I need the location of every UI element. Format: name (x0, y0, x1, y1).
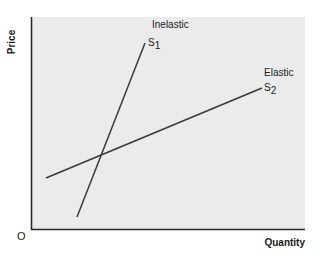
s2-subscript: 2 (271, 85, 277, 96)
y-axis-label: Price (6, 29, 17, 54)
supply-elasticity-diagram: Price Quantity O Inelastic S1 Elastic S2 (0, 0, 321, 259)
x-axis-label: Quantity (264, 237, 305, 248)
origin-label: O (17, 230, 26, 242)
elastic-label: Elastic (264, 67, 293, 78)
inelastic-label: Inelastic (152, 19, 189, 30)
s1-subscript: 1 (155, 40, 161, 51)
plot-area (32, 17, 305, 229)
